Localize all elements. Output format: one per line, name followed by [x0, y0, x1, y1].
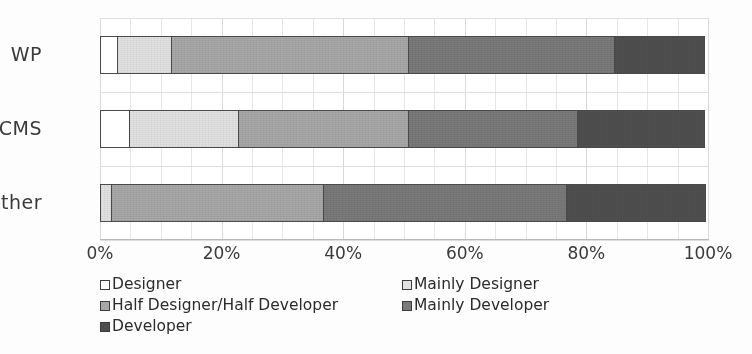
x-tick-label: 80%: [567, 243, 605, 263]
bar-segment: [323, 184, 567, 222]
gridline-horizontal: [100, 92, 709, 93]
bar-segment: [171, 36, 409, 74]
bar-cms: [100, 110, 709, 148]
legend-item[interactable]: Mainly Designer: [402, 277, 539, 293]
legend-label: Designer: [112, 277, 181, 293]
bar-segment: [566, 184, 706, 222]
legend-item[interactable]: Developer: [100, 319, 402, 335]
stacked-bar-chart: WPCMSOther 0%20%40%60%80%100% DesignerMa…: [0, 0, 752, 354]
bar-segment: [100, 110, 130, 148]
legend-swatch-icon: [402, 280, 412, 290]
legend-swatch-icon: [100, 322, 110, 332]
bar-segment: [238, 110, 409, 148]
bar-segment: [577, 110, 705, 148]
legend-row: Half Designer/Half DeveloperMainly Devel…: [100, 295, 720, 316]
legend-item[interactable]: Designer: [100, 277, 402, 293]
chart-legend: DesignerMainly DesignerHalf Designer/Hal…: [100, 274, 720, 337]
y-axis-label-wp: WP: [0, 43, 42, 65]
x-tick-label: 100%: [684, 243, 733, 263]
legend-item[interactable]: Half Designer/Half Developer: [100, 298, 402, 314]
bar-wp: [100, 36, 709, 74]
legend-swatch-icon: [402, 301, 412, 311]
legend-label: Mainly Developer: [414, 298, 549, 314]
x-tick-label: 20%: [203, 243, 241, 263]
bar-segment: [408, 110, 579, 148]
gridline-horizontal: [100, 18, 709, 19]
bar-segment: [100, 36, 118, 74]
bar-segment: [614, 36, 705, 74]
legend-label: Developer: [112, 319, 192, 335]
y-axis-label-other: Other: [0, 191, 42, 213]
bar-segment: [129, 110, 239, 148]
x-tick-label: 60%: [446, 243, 484, 263]
x-axis-tick-labels: 0%20%40%60%80%100%: [100, 243, 709, 267]
plot-area: [100, 18, 709, 240]
legend-label: Mainly Designer: [414, 277, 539, 293]
legend-row: Developer: [100, 316, 720, 337]
gridline-horizontal: [100, 166, 709, 167]
bar-segment: [117, 36, 172, 74]
legend-row: DesignerMainly Designer: [100, 274, 720, 295]
legend-label: Half Designer/Half Developer: [112, 298, 338, 314]
gridline-horizontal: [100, 240, 709, 241]
y-axis-label-cms: CMS: [0, 117, 42, 139]
x-tick-label: 0%: [87, 243, 114, 263]
legend-swatch-icon: [100, 301, 110, 311]
bar-segment: [111, 184, 324, 222]
x-axis-line: [100, 239, 709, 240]
bar-segment: [408, 36, 615, 74]
legend-swatch-icon: [100, 280, 110, 290]
bar-other: [100, 184, 709, 222]
legend-item[interactable]: Mainly Developer: [402, 298, 549, 314]
x-tick-label: 40%: [324, 243, 362, 263]
